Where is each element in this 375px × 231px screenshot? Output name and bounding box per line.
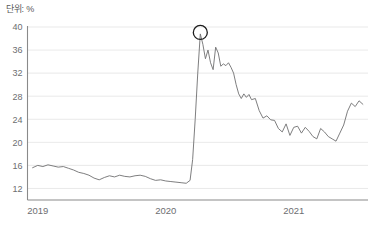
x-axis-tick-labels: 201920202021	[27, 205, 304, 216]
y-tick-16: 16	[12, 161, 22, 171]
x-tick-2020: 2020	[155, 205, 176, 216]
y-tick-28: 28	[12, 92, 22, 102]
y-axis-tick-labels: 1216202428323640	[12, 22, 22, 193]
y-tick-20: 20	[12, 138, 22, 148]
chart-container: 단위: % 1216202428323640 201920202021	[0, 0, 375, 231]
y-tick-40: 40	[12, 22, 22, 32]
data-series-line	[33, 34, 363, 183]
y-tick-36: 36	[12, 45, 22, 55]
x-tick-2019: 2019	[27, 205, 48, 216]
y-tick-12: 12	[12, 184, 22, 194]
line-chart-plot: 1216202428323640 201920202021	[0, 0, 375, 231]
gridlines	[28, 27, 369, 188]
y-tick-24: 24	[12, 115, 22, 125]
x-tick-2021: 2021	[283, 205, 304, 216]
y-tick-32: 32	[12, 68, 22, 78]
